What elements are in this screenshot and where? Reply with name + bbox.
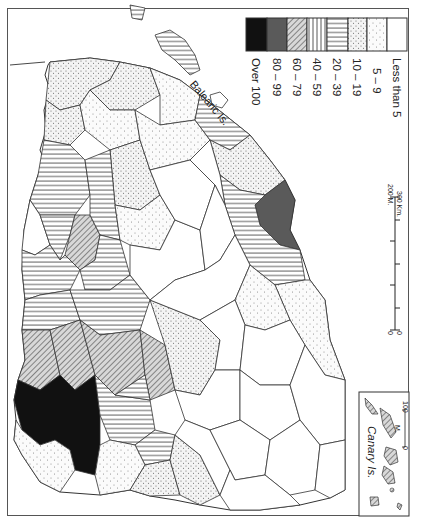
scale-miles-end: 200 M. bbox=[387, 184, 394, 205]
legend-label-40-59: 40 – 59 bbox=[311, 58, 323, 96]
legend-label-less-than-5: Less than 5 bbox=[391, 58, 403, 117]
scale-km-end: 300 Km. bbox=[396, 191, 403, 217]
canary-label: Canary Is. bbox=[366, 426, 378, 478]
scale-km-start: 0 bbox=[396, 331, 403, 335]
legend-label-20-39: 20 – 39 bbox=[331, 58, 343, 96]
legend-label-60-79: 60 – 79 bbox=[291, 58, 303, 96]
neighbor-coast bbox=[10, 62, 45, 65]
canary-scale-end: 100 bbox=[402, 401, 409, 413]
legend-swatches bbox=[246, 18, 407, 51]
canary-scale-start: 0 bbox=[402, 446, 409, 450]
province-less-than-5 bbox=[315, 440, 345, 498]
province-regions bbox=[14, 58, 345, 510]
scale-miles-start: 0 bbox=[387, 331, 394, 335]
legend-label-80-99: 80 – 99 bbox=[271, 58, 283, 96]
canary-scale-unit: M. bbox=[394, 425, 401, 433]
legend-label-10-19: 10 – 19 bbox=[351, 58, 363, 96]
legend-label-5-9: 5 – 9 bbox=[371, 68, 383, 94]
legend-label-over-100: Over 100 bbox=[250, 58, 262, 105]
